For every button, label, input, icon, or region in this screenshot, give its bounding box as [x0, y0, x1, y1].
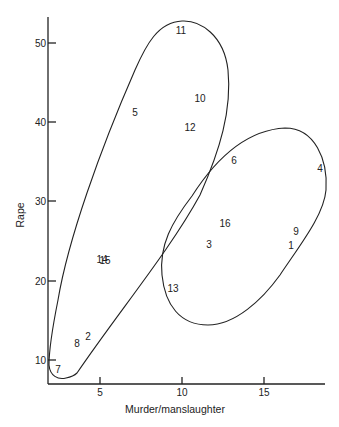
point-label-9: 9 — [293, 226, 299, 237]
point-label-10: 10 — [194, 93, 206, 104]
y-axis-title: Rape — [14, 202, 26, 227]
y-tick-label: 40 — [35, 117, 47, 128]
point-label-12: 12 — [184, 122, 196, 133]
point-label-1: 1 — [288, 240, 294, 251]
point-label-16: 16 — [219, 218, 231, 229]
point-label-5: 5 — [132, 107, 138, 118]
point-label-6: 6 — [231, 155, 237, 166]
y-tick-labels: 50 40 30 20 10 — [35, 38, 47, 366]
point-label-4: 4 — [317, 163, 323, 174]
point-label-8: 8 — [74, 338, 80, 349]
y-tick-label: 50 — [35, 38, 47, 49]
point-label-13: 13 — [167, 283, 179, 294]
scatter-chart: 50 40 30 20 10 5 10 15 Murder/manslaught… — [0, 0, 339, 427]
y-tick-label: 30 — [35, 196, 47, 207]
point-label-11: 11 — [176, 25, 187, 36]
x-tick-label: 15 — [258, 387, 270, 398]
point-label-7: 7 — [55, 364, 61, 375]
point-label-3: 3 — [206, 239, 212, 250]
x-tick-labels: 5 10 15 — [97, 387, 270, 398]
cluster-outlines — [49, 21, 326, 379]
x-axis-title: Murder/manslaughter — [125, 403, 225, 415]
axes — [48, 17, 325, 384]
x-tick-label: 5 — [97, 387, 103, 398]
y-tick-label: 20 — [35, 276, 47, 287]
y-tick-label: 10 — [35, 355, 47, 366]
point-label-15: 15 — [99, 255, 111, 266]
x-tick-label: 10 — [176, 387, 188, 398]
point-label-2: 2 — [85, 331, 91, 342]
cluster-outline-right — [162, 128, 327, 325]
